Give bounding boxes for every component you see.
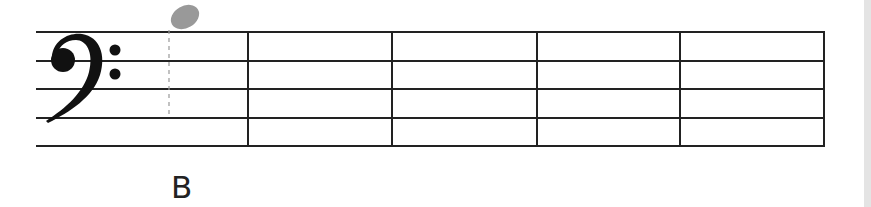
note-head-icon <box>167 0 204 34</box>
note-label: B <box>171 172 192 203</box>
side-strip <box>864 0 871 207</box>
bass-clef-icon <box>46 34 121 123</box>
staff-lines <box>36 32 825 146</box>
music-staff <box>0 0 871 207</box>
